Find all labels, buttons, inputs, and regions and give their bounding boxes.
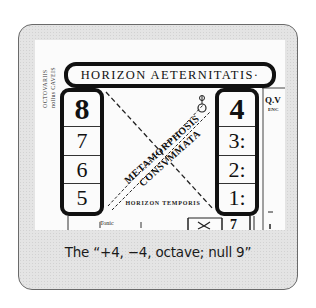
column-cell: 2: — [219, 156, 255, 185]
column-cell: 3: — [219, 127, 255, 156]
column-cell: 4 — [219, 92, 255, 127]
side-note-sub: ENC — [268, 107, 279, 112]
horizon-temporis-label: HORIZON TEMPORIS — [108, 200, 218, 206]
column-cell: 8 — [64, 92, 100, 127]
vertical-label-line: OCTOVARIIS — [41, 48, 49, 108]
bottom-glyph — [198, 222, 210, 229]
column-cell: 1: — [219, 184, 255, 212]
right-number-column: 4 3: 2: 1: — [215, 88, 259, 216]
column-cell: 6 — [64, 156, 100, 185]
horizon-aeternitatis-label: HORIZON AETERNITATIS· — [64, 62, 276, 88]
bottom-strip-label: Tonic — [100, 220, 114, 226]
column-cell: 7 — [64, 127, 100, 156]
side-note: Q.V — [265, 95, 281, 105]
vertical-label-line: nollus CAVEIS — [49, 48, 57, 108]
bottom-strip-glyph: 7 — [230, 217, 237, 233]
left-number-column: 8 7 6 5 — [60, 88, 104, 216]
column-cell: 5 — [64, 184, 100, 212]
figure-caption: The “+4, −4, octave; null 9” — [18, 244, 298, 260]
